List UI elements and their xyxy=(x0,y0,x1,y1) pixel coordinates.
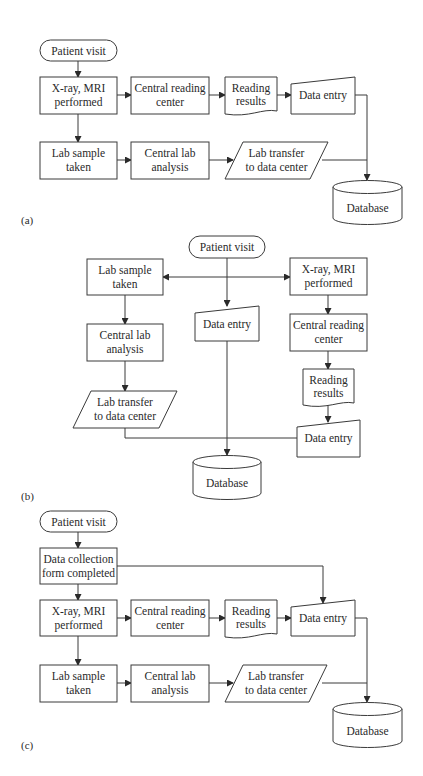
node-central-reading-center: Central reading center xyxy=(131,77,209,114)
svg-text:Reading: Reading xyxy=(232,82,271,95)
connector xyxy=(355,95,367,180)
node-patient-visit: Patient visit xyxy=(40,40,117,61)
svg-text:Central lab: Central lab xyxy=(145,147,196,159)
node-central-lab-analysis: Central lab analysis xyxy=(87,324,163,361)
svg-text:Database: Database xyxy=(206,477,248,489)
svg-text:to data center: to data center xyxy=(94,410,156,422)
svg-text:Data entry: Data entry xyxy=(299,612,347,625)
svg-text:performed: performed xyxy=(55,96,103,109)
node-lab-transfer: Lab transfer to data center xyxy=(73,391,177,428)
svg-text:Database: Database xyxy=(346,725,388,737)
svg-text:to data center: to data center xyxy=(246,161,308,173)
svg-text:analysis: analysis xyxy=(151,684,189,697)
svg-text:performed: performed xyxy=(55,619,103,632)
svg-text:taken: taken xyxy=(113,278,138,290)
svg-text:X-ray, MRI: X-ray, MRI xyxy=(302,263,356,276)
node-reading-results: Reading results xyxy=(225,600,277,638)
panel-label-b: (b) xyxy=(21,490,34,503)
node-data-entry: Data entry xyxy=(291,600,355,636)
svg-text:taken: taken xyxy=(66,684,91,696)
node-lab-sample: Lab sample taken xyxy=(40,142,117,179)
node-xray-mri: X-ray, MRI performed xyxy=(40,77,117,114)
node-database: Database xyxy=(193,456,261,500)
node-lab-sample: Lab sample taken xyxy=(40,665,117,702)
node-central-reading-center: Central reading center xyxy=(290,314,367,351)
svg-text:Central lab: Central lab xyxy=(100,329,151,341)
node-reading-results: Reading results xyxy=(225,77,277,115)
panel-label-a: (a) xyxy=(21,214,34,227)
svg-text:Central lab: Central lab xyxy=(145,670,196,682)
svg-text:X-ray, MRI: X-ray, MRI xyxy=(52,82,106,95)
svg-text:X-ray, MRI: X-ray, MRI xyxy=(52,605,106,618)
svg-text:center: center xyxy=(314,333,342,345)
node-central-reading-center: Central reading center xyxy=(131,600,209,636)
svg-text:Data entry: Data entry xyxy=(299,89,347,102)
svg-text:center: center xyxy=(156,619,184,631)
svg-text:Reading: Reading xyxy=(232,605,271,618)
node-data-collection-form: Data collection form completed xyxy=(40,548,117,584)
svg-text:Lab transfer: Lab transfer xyxy=(97,396,153,408)
svg-text:analysis: analysis xyxy=(106,343,144,356)
svg-text:Patient visit: Patient visit xyxy=(51,516,106,528)
svg-text:Lab transfer: Lab transfer xyxy=(249,147,305,159)
panel-label-c: (c) xyxy=(21,739,34,752)
svg-text:results: results xyxy=(236,95,267,107)
node-database: Database xyxy=(333,181,402,225)
svg-text:Central reading: Central reading xyxy=(134,605,205,618)
node-lab-transfer: Lab transfer to data center xyxy=(225,665,327,702)
connector xyxy=(355,618,367,702)
node-data-entry: Data entry xyxy=(291,77,355,114)
node-patient-visit: Patient visit xyxy=(40,511,117,532)
node-central-lab-analysis: Central lab analysis xyxy=(131,665,209,702)
svg-text:Lab transfer: Lab transfer xyxy=(248,670,304,682)
node-xray-mri: X-ray, MRI performed xyxy=(40,600,117,636)
node-patient-visit: Patient visit xyxy=(189,236,265,258)
node-data-entry-center: Data entry xyxy=(195,306,259,341)
panel-c: Patient visit Data collection form compl… xyxy=(21,511,402,752)
svg-text:Data entry: Data entry xyxy=(304,432,352,445)
svg-text:Patient visit: Patient visit xyxy=(200,241,255,253)
node-data-entry-right: Data entry xyxy=(297,420,360,457)
svg-text:results: results xyxy=(313,387,344,399)
node-database: Database xyxy=(333,703,402,748)
svg-text:Lab sample: Lab sample xyxy=(52,147,105,160)
node-reading-results: Reading results xyxy=(303,369,354,406)
svg-text:Reading: Reading xyxy=(309,374,348,387)
flowchart-figure: Patient visit X-ray, MRI performed Centr… xyxy=(0,0,423,776)
panel-a: Patient visit X-ray, MRI performed Centr… xyxy=(21,40,402,227)
svg-text:Patient visit: Patient visit xyxy=(51,45,106,57)
svg-text:performed: performed xyxy=(305,277,353,290)
node-xray-mri: X-ray, MRI performed xyxy=(290,258,367,295)
svg-text:Lab sample: Lab sample xyxy=(52,670,105,683)
svg-text:form completed: form completed xyxy=(42,567,115,580)
svg-text:to data center: to data center xyxy=(245,684,307,696)
svg-text:Data entry: Data entry xyxy=(203,318,251,331)
svg-text:taken: taken xyxy=(66,161,91,173)
node-lab-sample: Lab sample taken xyxy=(87,259,163,295)
svg-text:Central reading: Central reading xyxy=(293,319,364,332)
svg-text:Lab sample: Lab sample xyxy=(98,264,151,277)
svg-text:analysis: analysis xyxy=(151,161,189,174)
panel-b: Patient visit Lab sample taken X-ray, MR… xyxy=(21,236,367,503)
svg-text:Data collection: Data collection xyxy=(44,553,114,565)
svg-text:Central reading: Central reading xyxy=(134,82,205,95)
node-central-lab-analysis: Central lab analysis xyxy=(131,142,209,179)
svg-text:results: results xyxy=(236,618,267,630)
connector xyxy=(125,428,297,438)
svg-text:center: center xyxy=(156,96,184,108)
node-lab-transfer: Lab transfer to data center xyxy=(225,142,328,179)
svg-text:Database: Database xyxy=(346,202,388,214)
connector xyxy=(117,566,323,603)
